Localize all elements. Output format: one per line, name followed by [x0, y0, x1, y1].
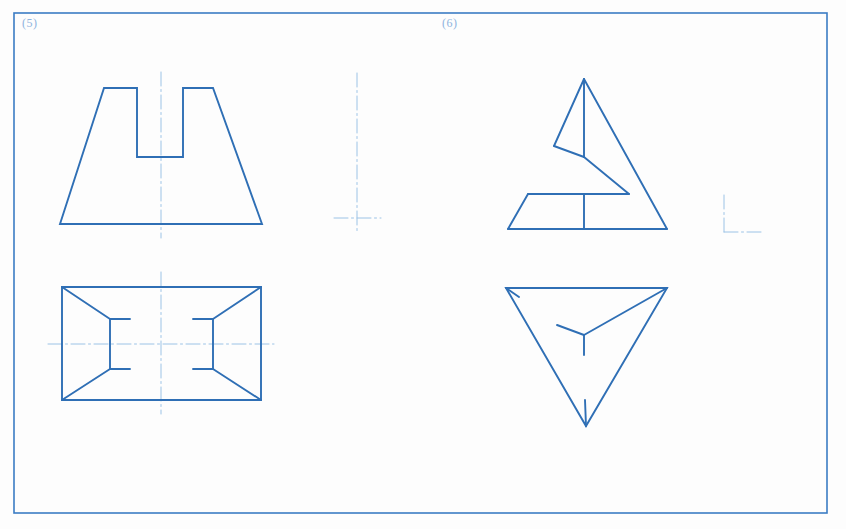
right-diagonal-lower — [213, 369, 261, 400]
p6-top-view — [506, 288, 667, 426]
technical-drawing-canvas — [0, 0, 846, 529]
drawing-sheet: (5) (6) — [0, 0, 846, 529]
zigzag-diagonal — [584, 157, 629, 194]
base-left-slope — [508, 194, 528, 229]
bottom-vertex-tick — [585, 400, 586, 426]
y-branch-to-right-corner — [584, 288, 667, 335]
upper-fold-left — [554, 146, 584, 157]
left-diagonal-upper — [62, 287, 110, 319]
p5-side-view — [334, 73, 381, 233]
drawing-geometry-group — [14, 13, 827, 513]
y-branch-upper-left — [557, 325, 584, 335]
p6-front-view — [508, 79, 667, 229]
problem-label-6: (6) — [442, 16, 458, 31]
inverted-triangle-outline — [506, 288, 667, 426]
apex-left-edge — [554, 79, 584, 146]
left-diagonal-lower — [62, 369, 110, 400]
p5-top-view — [48, 272, 274, 414]
p5-front-view — [60, 72, 262, 238]
p6-side-view — [724, 195, 763, 232]
right-diagonal-upper — [213, 287, 261, 319]
apex-right-edge — [584, 79, 667, 229]
problem-label-5: (5) — [22, 16, 38, 31]
